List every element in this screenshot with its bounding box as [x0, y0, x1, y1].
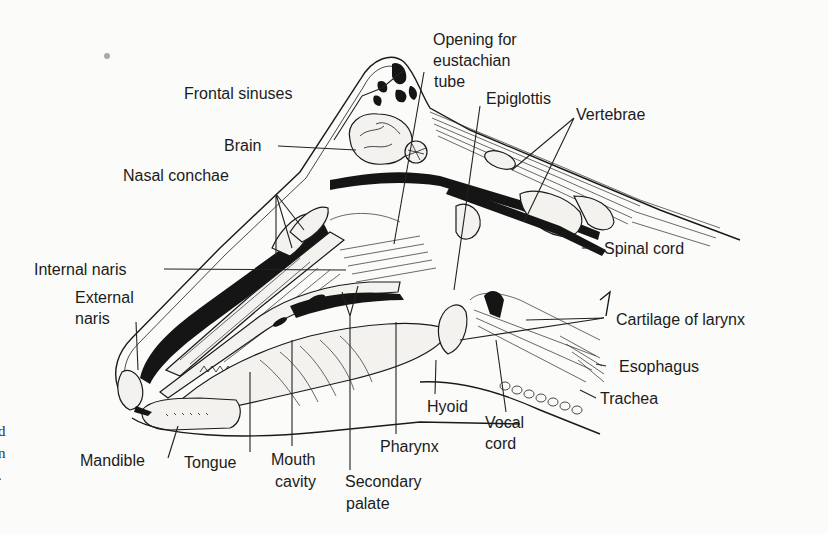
label-secondary-palate-line2: palate	[346, 495, 390, 512]
label-pharynx: Pharynx	[380, 438, 439, 455]
label-frontal-sinuses: Frontal sinuses	[184, 85, 293, 102]
external-naris-shape	[118, 370, 143, 410]
label-secondary-palate-line1: Secondary	[345, 473, 422, 490]
label-mouth-cavity-line1: Mouth	[271, 451, 315, 468]
label-cartilage-of-larynx: Cartilage of larynx	[616, 311, 745, 328]
label-nasal-conchae: Nasal conchae	[123, 167, 229, 184]
edge-char-1: d	[0, 423, 6, 439]
label-external-naris-line1: External	[75, 289, 134, 306]
label-brain: Brain	[224, 137, 261, 154]
leader-vocal-cord	[496, 340, 506, 412]
label-mandible: Mandible	[80, 452, 145, 469]
label-esophagus: Esophagus	[619, 358, 699, 375]
leader-hyoid	[435, 360, 436, 394]
leader-cartilage-larynx	[460, 318, 604, 340]
edge-char-3: .	[0, 467, 2, 483]
clipped-caption-fragment: d n .	[0, 423, 6, 483]
label-eustachian-line2: eustachian	[433, 52, 510, 69]
edge-char-2: n	[0, 445, 6, 461]
label-tongue: Tongue	[184, 454, 237, 471]
labels: Frontal sinuses Brain Nasal conchae Inte…	[34, 31, 745, 512]
leader-internal-naris	[164, 269, 346, 270]
leader-trachea	[580, 390, 596, 398]
label-internal-naris: Internal naris	[34, 261, 127, 278]
pharynx-region	[330, 213, 436, 282]
label-vertebrae: Vertebrae	[576, 106, 645, 123]
label-external-naris-line2: naris	[75, 310, 110, 327]
label-vocal-cord-line2: cord	[485, 435, 516, 452]
label-epiglottis: Epiglottis	[486, 90, 551, 107]
brain-shape	[349, 114, 412, 164]
paper-speck	[104, 53, 110, 59]
label-trachea: Trachea	[600, 390, 658, 407]
anatomy-diagram: Frontal sinuses Brain Nasal conchae Inte…	[0, 0, 828, 534]
label-spinal-cord: Spinal cord	[604, 240, 684, 257]
label-eustachian-line1: Opening for	[433, 31, 517, 48]
label-mouth-cavity-line2: cavity	[275, 473, 316, 490]
label-eustachian-line3: tube	[434, 73, 465, 90]
label-vocal-cord-line1: Vocal	[485, 414, 524, 431]
label-hyoid: Hyoid	[427, 398, 468, 415]
